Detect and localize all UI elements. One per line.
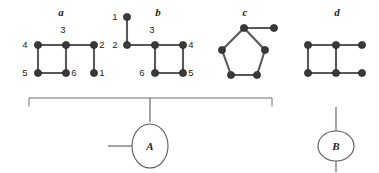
graph-figure: 432561123465 abcd AB bbox=[0, 0, 379, 173]
graph-vertex bbox=[34, 69, 41, 76]
vertex-label: 3 bbox=[149, 24, 154, 35]
vertex-label: 4 bbox=[22, 39, 27, 50]
vertex-label: 6 bbox=[139, 67, 144, 78]
graph-vertex bbox=[123, 41, 130, 48]
vertex-label: 5 bbox=[188, 67, 193, 78]
graph-caption-c: c bbox=[243, 6, 248, 18]
graph-vertex bbox=[358, 69, 365, 76]
graph-vertex bbox=[218, 46, 225, 53]
graph-vertex bbox=[270, 24, 277, 31]
graph-edge bbox=[222, 28, 244, 50]
graph-vertex bbox=[240, 24, 247, 31]
graph-vertex bbox=[34, 41, 41, 48]
vertex-label: 1 bbox=[99, 67, 104, 78]
vertex-label: 6 bbox=[71, 67, 76, 78]
graph-vertex bbox=[253, 71, 260, 78]
graph-edge bbox=[257, 50, 265, 75]
graph-caption-d: d bbox=[334, 6, 340, 18]
vertex-label: 2 bbox=[112, 39, 117, 50]
graph-vertex bbox=[332, 69, 339, 76]
graph-vertex bbox=[62, 41, 69, 48]
graph-vertex bbox=[304, 41, 311, 48]
graph-edge bbox=[222, 50, 231, 75]
graph-vertex bbox=[227, 71, 234, 78]
graph-vertex bbox=[179, 69, 186, 76]
vertex-label: 1 bbox=[112, 11, 117, 22]
vertex-label: 2 bbox=[99, 39, 104, 50]
grouping-layer: AB bbox=[29, 98, 354, 172]
graph-vertex bbox=[261, 46, 268, 53]
vertex-label: 5 bbox=[22, 67, 27, 78]
graph-vertex bbox=[90, 41, 97, 48]
graph-caption-a: a bbox=[58, 6, 64, 18]
graph-vertex bbox=[179, 41, 186, 48]
node-b-label: B bbox=[331, 140, 339, 152]
vertex-label: 3 bbox=[60, 24, 65, 35]
graph-caption-b: b bbox=[155, 6, 161, 18]
graph-edge bbox=[244, 28, 265, 50]
graph-vertex bbox=[358, 41, 365, 48]
graph-vertex bbox=[151, 69, 158, 76]
graph-vertex bbox=[332, 41, 339, 48]
graph-labels-layer: abcd bbox=[58, 6, 340, 18]
graph-vertex bbox=[304, 69, 311, 76]
edges-layer bbox=[38, 17, 362, 75]
figure-canvas: 432561123465 abcd AB bbox=[0, 0, 379, 173]
vertex-label: 4 bbox=[188, 39, 193, 50]
node-a-label: A bbox=[145, 140, 153, 152]
graph-vertex bbox=[123, 13, 130, 20]
graph-vertex bbox=[62, 69, 69, 76]
graph-vertex bbox=[90, 69, 97, 76]
graph-vertex bbox=[151, 41, 158, 48]
